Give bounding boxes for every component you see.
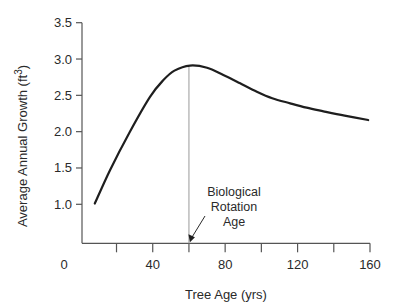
- y-ticks: 1.01.52.02.53.03.5: [54, 15, 82, 212]
- annotation-biological-rotation-age: Biological Rotation Age: [188, 185, 260, 242]
- x-axis-title: Tree Age (yrs): [185, 287, 267, 302]
- annotation-line-2: Rotation: [211, 200, 258, 214]
- series-line-average-annual-growth: [95, 65, 368, 203]
- x-tick-label: 160: [359, 257, 381, 272]
- annotation-line-3: Age: [223, 215, 245, 229]
- y-tick-label: 2.0: [54, 124, 72, 139]
- y-tick-label: 2.5: [54, 88, 72, 103]
- y-axis-title: Average Annual Growth (ft3): [13, 65, 30, 227]
- x-tick-label: 0: [60, 257, 67, 272]
- y-tick-label: 1.5: [54, 160, 72, 175]
- y-axis-title-main: Average Annual Growth (ft: [15, 74, 30, 227]
- annotation-arrow-shaft: [192, 216, 205, 237]
- x-ticks: 04080120160: [60, 243, 380, 272]
- x-tick-label: 40: [145, 257, 159, 272]
- y-tick-label: 1.0: [54, 197, 72, 212]
- growth-chart: 1.01.52.02.53.03.5 04080120160 Biologica…: [0, 0, 395, 306]
- x-tick-label: 120: [287, 257, 309, 272]
- y-tick-label: 3.0: [54, 52, 72, 67]
- x-tick-label: 80: [218, 257, 232, 272]
- annotation-line-1: Biological: [207, 185, 261, 199]
- y-tick-label: 3.5: [54, 15, 72, 30]
- y-axis-title-suffix: ): [15, 65, 30, 69]
